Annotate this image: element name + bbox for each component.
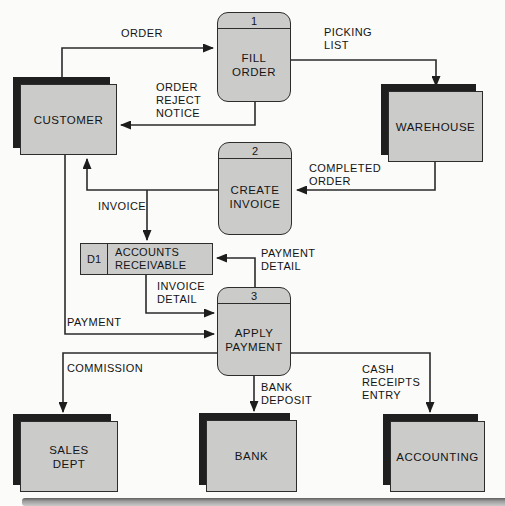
entity-customer-label: CUSTOMER — [20, 84, 117, 155]
entity-bank-label: BANK — [206, 420, 297, 492]
flow-label-payment-detail: PAYMENT DETAIL — [261, 247, 315, 273]
entity-accounting: ACCOUNTING — [390, 421, 485, 492]
entity-accounting-label: ACCOUNTING — [390, 421, 485, 492]
flow-label-commission: COMMISSION — [67, 362, 143, 375]
process-2-create-invoice: 2 CREATE INVOICE — [218, 142, 292, 235]
flow-label-order-reject-notice: ORDER REJECT NOTICE — [156, 81, 201, 120]
entity-warehouse-label: WAREHOUSE — [388, 91, 483, 162]
entity-sales-dept-label: SALES DEPT — [20, 421, 118, 492]
process-3-apply-payment: 3 APPLY PAYMENT — [217, 287, 291, 376]
flow-label-picking-list: PICKING LIST — [324, 26, 372, 52]
flow-label-invoice: INVOICE — [98, 200, 146, 213]
dfd-diagram: CUSTOMER WAREHOUSE SALES DEPT BANK ACCOU… — [0, 0, 505, 506]
flow-label-invoice-detail: INVOICE DETAIL — [157, 280, 205, 306]
process-number: 3 — [218, 288, 290, 304]
flow-label-cash-receipts-entry: CASH RECEIPTS ENTRY — [362, 363, 420, 402]
process-label: CREATE INVOICE — [219, 159, 291, 234]
process-number: 1 — [218, 13, 290, 29]
entity-customer: CUSTOMER — [20, 84, 117, 155]
flow-picking-list-path — [291, 60, 436, 86]
flow-label-completed-order: COMPLETED ORDER — [309, 162, 381, 188]
process-1-fill-order: 1 FILL ORDER — [217, 12, 291, 102]
flow-label-bank-deposit: BANK DEPOSIT — [261, 381, 312, 407]
entity-warehouse: WAREHOUSE — [388, 91, 483, 162]
flow-label-order: ORDER — [121, 27, 163, 40]
datastore-label: ACCOUNTS RECEIVABLE — [108, 244, 212, 274]
entity-sales-dept: SALES DEPT — [20, 421, 118, 492]
page-edge-bar — [22, 498, 505, 506]
entity-bank: BANK — [206, 420, 297, 492]
process-label: APPLY PAYMENT — [218, 304, 290, 375]
flow-payment-detail-path — [217, 258, 255, 287]
process-label: FILL ORDER — [218, 29, 290, 101]
datastore-d1-accounts-receivable: D1 ACCOUNTS RECEIVABLE — [80, 243, 213, 275]
datastore-id: D1 — [81, 244, 108, 274]
process-number: 2 — [219, 143, 291, 159]
flow-invoice-to-customer-path — [87, 159, 218, 190]
flow-label-payment: PAYMENT — [67, 316, 121, 329]
